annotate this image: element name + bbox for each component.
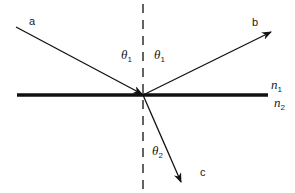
angle-label-reflected: θ1	[154, 47, 165, 64]
angle-label-incident: θ1	[121, 47, 132, 64]
ray-label-b: b	[252, 16, 258, 28]
angle-label-refracted: θ2	[152, 143, 163, 160]
medium-label-n1: n1	[271, 77, 283, 94]
ray-label-a: a	[29, 15, 36, 27]
ray-label-c: c	[200, 166, 206, 178]
medium-label-n2: n2	[274, 95, 286, 112]
refraction-diagram: a b c θ1 θ1 θ2 n1 n2	[0, 0, 295, 193]
refracted-ray-c	[143, 95, 181, 182]
diagram-svg: a b c θ1 θ1 θ2 n1 n2	[0, 0, 295, 193]
